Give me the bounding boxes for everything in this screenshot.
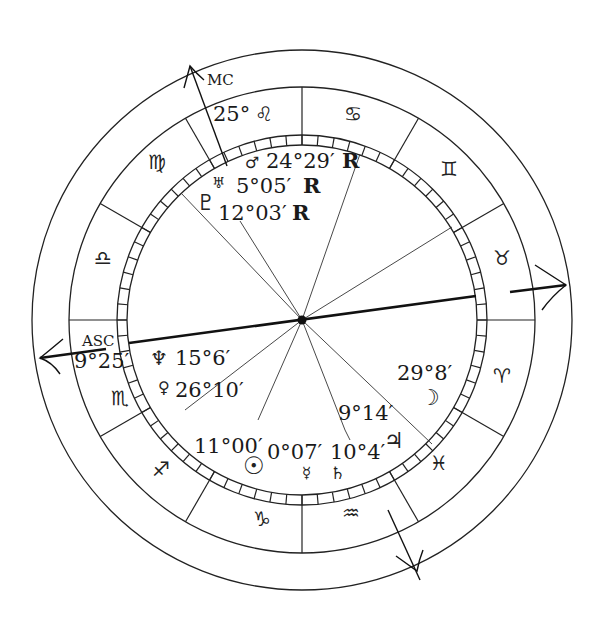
neptune-glyph: ♆	[150, 346, 168, 370]
sun-glyph: ☉	[243, 452, 265, 480]
mc-degree: 25°	[213, 102, 250, 126]
asc-label: ASC	[81, 332, 115, 350]
aries-glyph: ♈	[493, 364, 511, 388]
leo-glyph: ♌	[255, 102, 273, 126]
libra-glyph: ♎	[94, 246, 112, 270]
saturn-glyph: ♄	[330, 463, 345, 483]
mars-retro: R	[342, 148, 360, 173]
mc-label: MC	[207, 71, 234, 89]
moon-glyph: ☽	[420, 385, 440, 410]
taurus-glyph: ♉	[493, 246, 511, 270]
capricorn-glyph: ♑	[253, 507, 271, 531]
scorpio-glyph: ♏	[111, 386, 129, 410]
jupiter-glyph: ♃	[384, 428, 404, 453]
chart-center	[298, 316, 307, 325]
mars-glyph: ♂	[245, 153, 259, 172]
pluto-position: 12°03′	[218, 201, 287, 225]
neptune-position: 15°6′	[175, 346, 231, 370]
uranus-retro: R	[303, 173, 321, 198]
mercury-glyph: ☿	[302, 464, 311, 482]
gemini-glyph: ♊	[440, 157, 458, 181]
pluto-glyph: ♇	[196, 190, 216, 215]
sagittarius-glyph: ♐	[152, 457, 170, 481]
saturn-position: 10°4′	[330, 440, 386, 464]
natal-chart-wheel: MC 25° ♌ ASC 9°25′ ♋ ♊ ♉ ♈ ♓ ♒ ♑ ♐ ♏ ♎ ♍…	[0, 0, 601, 625]
venus-glyph: ♀	[158, 378, 170, 397]
moon-position: 29°8′	[397, 361, 453, 385]
uranus-position: 5°05′	[236, 174, 292, 198]
aquarius-glyph: ♒	[342, 501, 360, 525]
virgo-glyph: ♍	[148, 150, 166, 174]
cancer-glyph: ♋	[344, 102, 362, 126]
pisces-glyph: ♓	[430, 451, 448, 475]
venus-position: 26°10′	[175, 378, 244, 402]
pluto-retro: R	[292, 200, 310, 225]
mercury-position: 0°07′	[267, 440, 323, 464]
mars-position: 24°29′	[266, 149, 335, 173]
jupiter-position: 9°14′	[338, 401, 394, 425]
asc-degree: 9°25′	[74, 349, 130, 373]
